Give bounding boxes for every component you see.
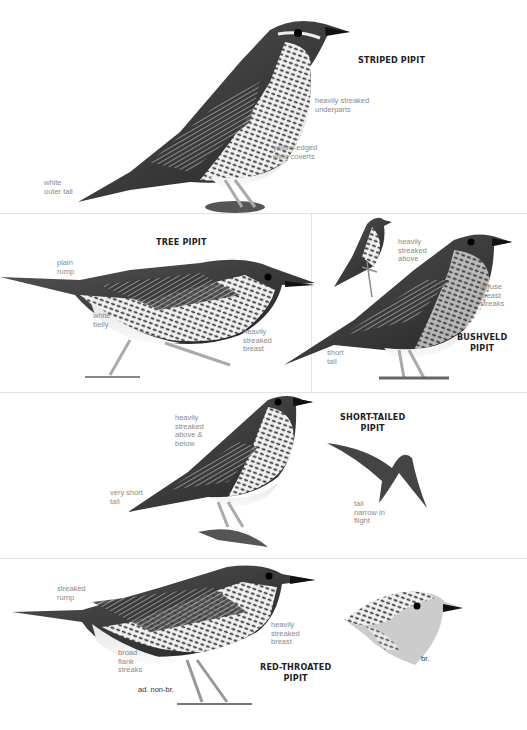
bird-short-tailed-pipit-illustration [128,392,313,552]
annotation-label: broad flank streaks [118,649,142,675]
annotation-label: streaked rump [57,585,86,602]
species-title: SHORT-TAILED PIPIT [340,411,405,433]
species-title: BUSHVELD PIPIT [457,331,507,353]
age-label-adult-non-breeding: ad. non-br. [138,686,174,695]
species-title: STRIPED PIPIT [358,54,425,65]
bird-striped-pipit-illustration [70,12,360,217]
annotation-label: heavily streaked breast [271,621,300,647]
annotation-label: short tail [327,349,344,366]
age-label-breeding: br. [421,655,429,664]
annotation-label: very short tail [110,489,143,506]
divider-row-3 [0,558,527,559]
annotation-label: yellow-edged wing coverts [273,144,317,161]
annotation-label: plain rump [57,259,74,276]
species-title: TREE PIPIT [156,236,207,247]
species-title: RED-THROATED PIPIT [260,661,331,683]
annotation-label: heavily streaked above & below [175,414,204,448]
bird-tree-pipit-illustration [0,255,320,385]
annotation-label: tail narrow in flight [354,500,385,526]
annotation-label: diffuse breast streaks [480,283,504,309]
annotation-label: white outer tail [44,179,73,196]
annotation-label: heavily streaked above [398,238,427,264]
bird-red-throated-pipit-head-illustration [345,590,465,665]
annotation-label: white belly [93,312,111,329]
annotation-label: heavily streaked breast [243,328,272,354]
annotation-label: heavily streaked underparts [315,97,369,114]
